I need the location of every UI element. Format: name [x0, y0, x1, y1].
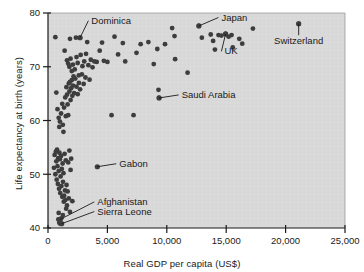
- data-point: [53, 35, 58, 40]
- data-point: [66, 160, 71, 165]
- data-point: [68, 36, 73, 41]
- data-point: [78, 87, 83, 92]
- data-point: [240, 41, 245, 46]
- data-point: [80, 64, 85, 69]
- data-point: [59, 111, 64, 116]
- data-point: [156, 87, 161, 92]
- data-point: [65, 189, 70, 194]
- data-point: [78, 53, 83, 58]
- y-tick-label: 40: [29, 222, 40, 233]
- x-tick-label: 5,000: [96, 235, 120, 246]
- data-point: [105, 60, 110, 65]
- data-point: [112, 34, 117, 39]
- data-point: [66, 113, 71, 118]
- annotation-label: Dominica: [91, 15, 131, 26]
- data-point: [170, 26, 175, 31]
- data-point: [81, 82, 86, 87]
- data-point: [62, 193, 67, 198]
- data-point: [68, 98, 73, 103]
- data-point: [134, 50, 139, 55]
- data-point: [55, 164, 60, 169]
- data-point: [60, 122, 65, 127]
- x-tick-label: 15,000: [212, 235, 241, 246]
- data-point: [251, 26, 256, 31]
- data-point: [61, 129, 66, 134]
- data-point: [237, 36, 242, 41]
- data-point: [71, 62, 76, 67]
- data-point: [82, 59, 87, 64]
- data-point: [55, 107, 60, 112]
- data-point: [68, 56, 73, 61]
- data-point: [69, 156, 74, 161]
- y-tick-label: 60: [29, 115, 40, 126]
- data-point: [56, 211, 61, 216]
- data-point: [54, 177, 59, 182]
- scatter-plot-figure: 405060708005,00010,00015,00020,00025,000…: [0, 0, 364, 272]
- annotation-label: Sierra Leone: [97, 206, 151, 217]
- y-tick-label: 50: [29, 169, 40, 180]
- data-point: [94, 60, 99, 65]
- x-tick-label: 10,000: [152, 235, 181, 246]
- annotation-label: Switzerland: [274, 35, 323, 46]
- annotation-label: Japan: [221, 12, 247, 23]
- data-point: [123, 59, 128, 64]
- data-point: [64, 183, 69, 188]
- data-point: [67, 148, 72, 153]
- data-point: [72, 67, 77, 72]
- data-point: [54, 90, 59, 95]
- data-point: [62, 48, 67, 53]
- data-point: [151, 62, 156, 67]
- data-point: [68, 168, 73, 173]
- y-tick-label: 80: [29, 7, 40, 18]
- data-point: [211, 39, 216, 44]
- data-point: [208, 32, 213, 37]
- data-point: [229, 33, 234, 38]
- data-point: [75, 61, 80, 66]
- data-point: [59, 166, 64, 171]
- data-point: [75, 92, 80, 97]
- data-point: [120, 41, 125, 46]
- data-point: [90, 65, 95, 70]
- data-point: [79, 72, 84, 77]
- data-point: [74, 55, 79, 60]
- data-point: [116, 52, 121, 57]
- data-point: [172, 34, 177, 39]
- data-point: [131, 113, 136, 118]
- data-point: [109, 113, 114, 118]
- y-tick-label: 70: [29, 61, 40, 72]
- annotation-label: Gabon: [119, 158, 148, 169]
- data-point: [65, 102, 70, 107]
- data-point: [85, 40, 90, 45]
- data-point: [59, 184, 64, 189]
- data-point: [76, 80, 81, 85]
- data-point: [87, 77, 92, 82]
- data-point: [155, 47, 160, 52]
- data-point: [61, 171, 66, 176]
- data-point: [62, 151, 67, 156]
- chart-canvas: 405060708005,00010,00015,00020,00025,000…: [0, 0, 364, 272]
- data-point: [173, 57, 178, 62]
- x-tick-label: 0: [45, 235, 50, 246]
- annotation-label: UK: [224, 45, 238, 56]
- data-point: [146, 40, 151, 45]
- data-point: [100, 40, 105, 45]
- y-axis-title: Life expectancy at birth (years): [13, 14, 24, 234]
- data-point: [65, 203, 70, 208]
- data-point: [97, 48, 102, 53]
- data-point: [70, 199, 75, 204]
- data-point: [84, 51, 89, 56]
- data-point: [86, 63, 91, 68]
- data-point: [83, 75, 88, 80]
- data-point: [163, 42, 168, 47]
- x-tick-label: 20,000: [271, 235, 300, 246]
- data-point: [185, 70, 190, 75]
- data-point: [138, 42, 143, 47]
- x-tick-label: 25,000: [330, 235, 359, 246]
- data-point: [213, 47, 218, 52]
- data-point: [73, 76, 78, 81]
- x-axis-title: Real GDP per capita (US$): [0, 258, 364, 269]
- data-point: [62, 105, 67, 110]
- data-point: [199, 35, 204, 40]
- annotation-label: Saudi Arabia: [182, 89, 237, 100]
- data-point: [61, 179, 66, 184]
